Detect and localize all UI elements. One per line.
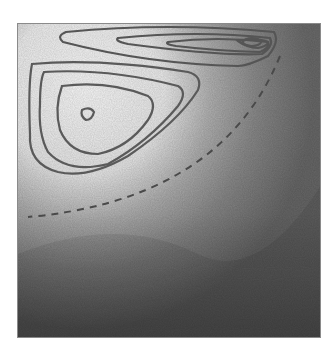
contour-plot: [17, 23, 321, 338]
contour-plot-canvas: [18, 24, 321, 338]
